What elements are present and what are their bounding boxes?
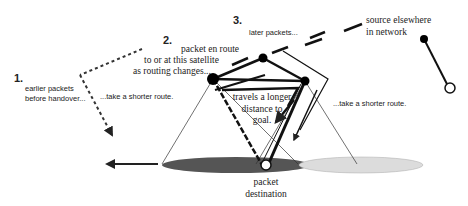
step-3-route-note: ...take a shorter route. xyxy=(333,99,406,109)
destination-line-2: destination xyxy=(236,189,296,201)
handover-diagram: 1. earlier packets before handover... ..… xyxy=(0,0,468,206)
footprint-left xyxy=(162,157,310,173)
step-3-line-1: later packets... xyxy=(249,28,298,38)
step-3-number: 3. xyxy=(233,14,242,26)
step-2-number: 2. xyxy=(163,34,172,46)
step-2-line-2: to or at this satellite xyxy=(144,55,219,67)
step-2-route-line-3: goal. xyxy=(226,115,298,127)
step-1-route-note: ...take a shorter route. xyxy=(100,92,173,102)
step-1-label: earlier packets before handover... xyxy=(25,84,85,104)
satellite-top-node xyxy=(259,54,268,63)
source-line-2: in network xyxy=(366,27,431,39)
step-2-route-note: travels a longer distance to goal. xyxy=(226,92,298,127)
step-2-route-line-2: distance to xyxy=(226,104,298,116)
destination-label: packet destination xyxy=(236,177,296,200)
destination-node xyxy=(261,160,271,170)
step-2-line-3: as routing changes... xyxy=(133,66,211,78)
satellite-right-node xyxy=(301,77,310,86)
source-uplink xyxy=(424,39,449,88)
destination-line-1: packet xyxy=(236,177,296,189)
step-2-route-line-1: travels a longer xyxy=(226,92,298,104)
source-label: source elsewhere in network xyxy=(366,15,431,38)
source-line-1: source elsewhere xyxy=(366,15,431,27)
source-ground-node xyxy=(445,83,455,93)
step-1-line-2: before handover... xyxy=(25,94,85,104)
step-1-line-1: earlier packets xyxy=(25,84,85,94)
step-2-line-1: packet en route xyxy=(181,44,239,56)
footprint-right xyxy=(299,157,423,173)
step-1-number: 1. xyxy=(14,72,23,84)
